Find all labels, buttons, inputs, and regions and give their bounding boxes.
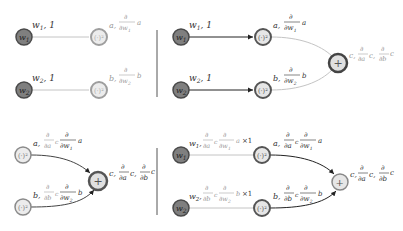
node-square-b: (·)² [15, 199, 31, 215]
svg-text:(·)²: (·)² [257, 205, 267, 213]
node-square-b: (·)² [254, 200, 270, 216]
panel-backward-sum: (·)² (·)² + a, ∂ ∂a c ∂ ∂w1 a b, ∂ ∂b c [15, 131, 155, 215]
label-a-out: a, ∂ ∂w1 a [109, 13, 141, 33]
svg-text:∂w2: ∂w2 [284, 77, 297, 86]
svg-text:∂b: ∂b [379, 55, 387, 63]
svg-text:∂: ∂ [46, 131, 50, 139]
label-w2-out: w2, 1 [189, 73, 212, 84]
svg-text:c,: c, [369, 52, 375, 60]
svg-text:a: a [137, 19, 141, 27]
svg-text:b,: b, [33, 191, 41, 200]
svg-text:∂a: ∂a [119, 174, 127, 182]
svg-text:(·)²: (·)² [258, 87, 268, 95]
svg-text:∂a: ∂a [284, 142, 292, 150]
svg-text:∂: ∂ [360, 45, 364, 53]
svg-text:(·)²: (·)² [18, 152, 28, 160]
label-w1-out: w1, 1 [32, 20, 55, 31]
svg-text:∂a: ∂a [44, 142, 51, 150]
edge-a-c [271, 37, 332, 56]
svg-text:(·)²: (·)² [18, 204, 28, 212]
label-w1-out: w1, ∂ ∂a c ∂ ∂w1 a ×1 [189, 131, 252, 151]
svg-text:(·)²: (·)² [94, 34, 104, 42]
svg-text:b,: b, [273, 74, 281, 83]
node-square-b: (·)² [255, 82, 271, 98]
svg-text:c: c [390, 50, 394, 58]
svg-text:∂a: ∂a [358, 55, 365, 63]
svg-text:∂: ∂ [286, 184, 290, 192]
svg-text:c,: c, [130, 169, 137, 178]
svg-text:∂: ∂ [205, 184, 209, 192]
node-square-a: (·)² [15, 147, 31, 163]
svg-text:∂w2: ∂w2 [300, 195, 313, 204]
node-square-b: (·)² [91, 82, 107, 98]
svg-text:c,: c, [350, 170, 357, 179]
svg-text:∂: ∂ [46, 183, 50, 191]
svg-text:c,: c, [369, 170, 376, 179]
svg-text:a: a [318, 137, 322, 145]
svg-text:∂: ∂ [223, 131, 227, 139]
svg-text:∂: ∂ [286, 131, 290, 139]
node-w1: w1 [173, 29, 189, 45]
svg-text:c: c [214, 191, 218, 198]
svg-text:∂a: ∂a [203, 142, 210, 150]
svg-text:∂: ∂ [360, 164, 364, 172]
svg-text:∂w1: ∂w1 [119, 24, 131, 33]
svg-text:c,: c, [109, 169, 116, 178]
label-b-out: b, ∂ ∂w2 b [109, 66, 142, 86]
label-a-out: a, ∂ ∂w1 a [273, 13, 306, 33]
svg-text:b: b [236, 190, 240, 198]
svg-text:∂b: ∂b [44, 194, 52, 202]
svg-text:∂w2: ∂w2 [219, 195, 231, 204]
node-w1: w1 [173, 147, 189, 163]
svg-text:c: c [390, 169, 394, 177]
svg-text:c: c [55, 190, 59, 197]
node-square-a: (·)² [255, 29, 271, 45]
svg-text:∂w1: ∂w1 [60, 142, 73, 151]
svg-text:∂w1: ∂w1 [219, 142, 231, 151]
svg-text:a,: a, [273, 139, 280, 148]
svg-text:w2,: w2, [189, 192, 202, 202]
label-b-out: b, ∂ ∂b c ∂ ∂w2 b [33, 183, 83, 203]
svg-text:+: + [334, 57, 343, 70]
svg-text:c: c [214, 138, 218, 145]
label-a-out: a, ∂ ∂a c ∂ ∂w1 a [273, 131, 322, 151]
svg-text:∂w1: ∂w1 [300, 142, 313, 151]
svg-text:∂b: ∂b [140, 174, 149, 182]
svg-text:a,: a, [33, 139, 40, 148]
svg-text:c: c [151, 168, 155, 176]
node-square-a: (·)² [254, 147, 270, 163]
svg-text:+: + [336, 177, 344, 188]
node-w1: w1 [16, 29, 32, 45]
node-plus-c: + [329, 54, 347, 72]
panel-forward-inputs: w1 w2 (·)² (·)² w1, 1 w2, 1 a, ∂ ∂w1 a b… [16, 13, 142, 98]
node-plus-c: + [89, 172, 107, 190]
edge-a-c [270, 155, 334, 174]
svg-text:a: a [236, 137, 240, 145]
svg-text:∂: ∂ [65, 183, 69, 191]
svg-text:∂: ∂ [381, 45, 385, 53]
svg-text:∂w1: ∂w1 [284, 24, 297, 33]
svg-text:(·)²: (·)² [94, 87, 104, 95]
svg-text:∂: ∂ [142, 163, 146, 171]
svg-text:a: a [78, 137, 82, 145]
svg-text:∂: ∂ [205, 131, 209, 139]
svg-text:∂: ∂ [124, 66, 128, 74]
svg-text:+: + [94, 175, 103, 188]
svg-text:w1,: w1, [189, 139, 202, 149]
label-w2-out: w2, ∂ ∂b c ∂ ∂w2 b ×1 [189, 184, 252, 204]
computation-graph-diagram: w1 w2 (·)² (·)² w1, 1 w2, 1 a, ∂ ∂w1 a b… [0, 0, 403, 231]
svg-text:∂: ∂ [304, 131, 308, 139]
svg-text:b,: b, [273, 192, 281, 201]
svg-text:a,: a, [109, 21, 116, 30]
svg-text:b: b [302, 72, 307, 80]
svg-text:∂: ∂ [304, 184, 308, 192]
svg-text:×1: ×1 [242, 190, 252, 198]
svg-text:∂w2: ∂w2 [119, 77, 131, 86]
node-w2: w2 [16, 82, 32, 98]
svg-text:∂: ∂ [223, 184, 227, 192]
edge-a-c [31, 155, 90, 173]
label-b-out: b, ∂ ∂w2 b [273, 66, 307, 86]
svg-text:(·)²: (·)² [257, 152, 267, 160]
label-c-out: c, ∂ ∂a c, ∂ ∂b c [349, 45, 394, 63]
svg-text:a,: a, [273, 21, 280, 30]
